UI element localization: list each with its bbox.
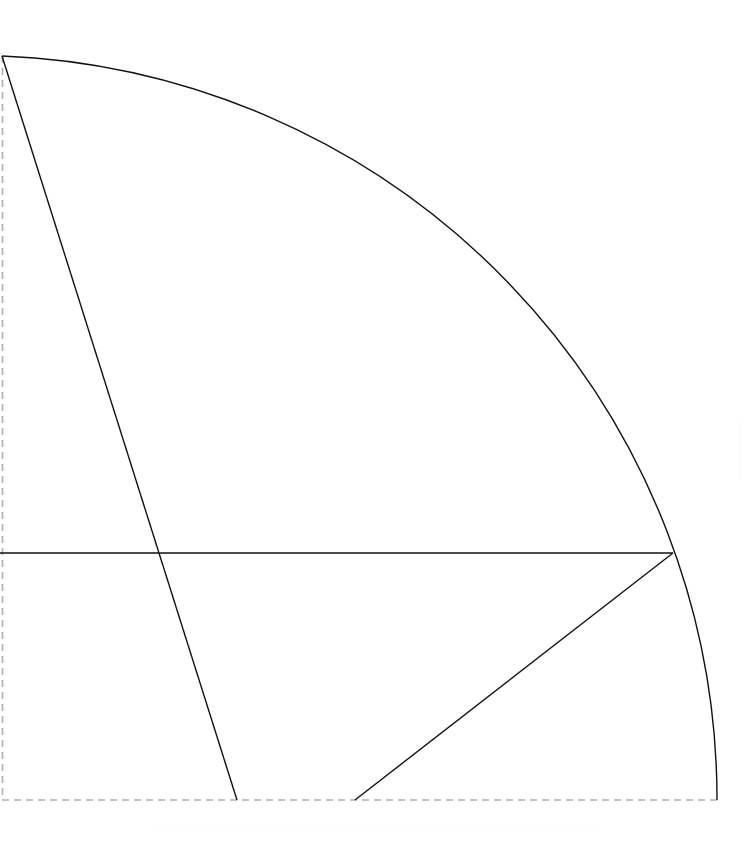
radius-line-left xyxy=(2,56,237,800)
faint-artifact-group xyxy=(150,420,740,826)
radius-line-right xyxy=(355,553,673,800)
solid-geometry-group xyxy=(0,56,717,800)
diagram-canvas xyxy=(0,0,751,858)
sector-diagram-svg xyxy=(0,0,751,858)
dashed-boundary-group xyxy=(2,56,717,800)
sector-arc-path xyxy=(2,56,717,800)
